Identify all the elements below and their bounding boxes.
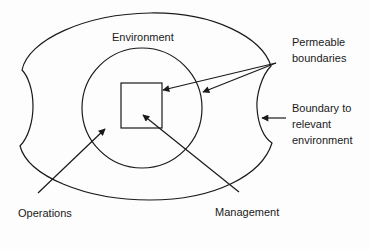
label-management: Management bbox=[215, 204, 279, 220]
arrow-management-to-square bbox=[143, 115, 239, 192]
management-square bbox=[121, 83, 162, 128]
arrow-operations-to-circle bbox=[38, 129, 105, 193]
label-permeable-boundaries: Permeable boundaries bbox=[292, 34, 346, 66]
diagram-canvas: Environment Permeable boundaries Boundar… bbox=[0, 0, 369, 249]
label-permeable-line1: Permeable bbox=[292, 34, 346, 50]
label-operations: Operations bbox=[18, 205, 72, 221]
label-boundary-line1: Boundary to bbox=[292, 100, 353, 116]
label-boundary-line3: environment bbox=[292, 132, 353, 148]
operations-circle bbox=[82, 48, 202, 168]
label-permeable-line2: boundaries bbox=[292, 50, 346, 66]
label-boundary-line2: relevant bbox=[292, 116, 353, 132]
label-environment: Environment bbox=[112, 29, 174, 45]
label-boundary-relevant-environment: Boundary to relevant environment bbox=[292, 100, 353, 148]
